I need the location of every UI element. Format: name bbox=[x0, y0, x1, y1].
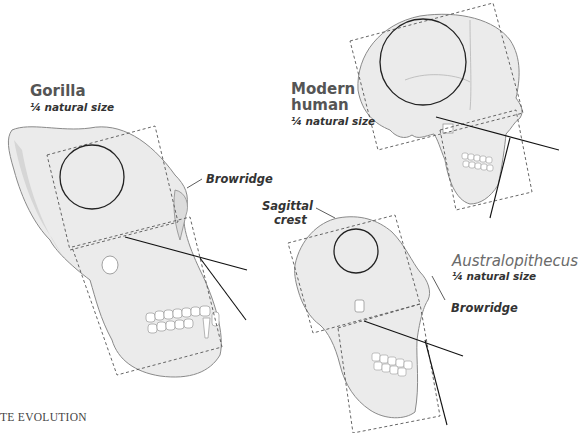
gorilla-scale: ¼ natural size bbox=[30, 101, 114, 113]
chapter-footer: TE EVOLUTION bbox=[0, 411, 87, 423]
modern-human-scale: ¼ natural size bbox=[291, 115, 375, 127]
sagittal-crest-label-line1: Sagittal bbox=[262, 199, 313, 213]
gorilla-browridge-label: Browridge bbox=[206, 172, 273, 186]
modern-human-skull bbox=[350, 3, 559, 218]
sagittal-crest-label-line2: crest bbox=[274, 213, 307, 227]
gorilla-skull bbox=[8, 126, 247, 377]
australopithecus-browridge-label: Browridge bbox=[451, 301, 518, 315]
modern-human-title-line1: Modern bbox=[291, 81, 355, 97]
australopithecus-title: Australopithecus bbox=[452, 252, 578, 270]
gorilla-title: Gorilla bbox=[30, 83, 86, 99]
australopithecus-skull bbox=[288, 208, 463, 433]
australopithecus-scale: ¼ natural size bbox=[452, 270, 536, 282]
modern-human-title-line2: human bbox=[291, 97, 349, 113]
